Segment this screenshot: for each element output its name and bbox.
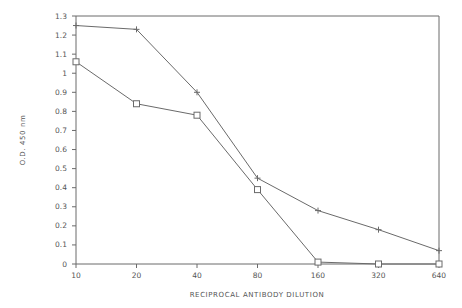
series-line <box>76 26 439 251</box>
square-marker <box>255 187 261 193</box>
y-tick-label: 0.4 <box>55 183 67 192</box>
y-tick-label: 1.1 <box>55 50 67 59</box>
x-tick-label: 320 <box>371 271 386 280</box>
line-chart: 00.10.20.30.40.50.60.70.80.911.11.21.3 1… <box>0 0 462 308</box>
y-tick-label: 1.2 <box>55 31 67 40</box>
x-tick-label: 80 <box>253 271 263 280</box>
x-tick-label: 640 <box>432 271 447 280</box>
y-tick-label: 1.3 <box>55 12 67 21</box>
x-tick-label: 160 <box>311 271 326 280</box>
square-marker <box>376 261 382 267</box>
plus-marker <box>376 227 382 233</box>
square-marker <box>73 59 79 65</box>
plus-marker <box>436 248 442 254</box>
x-axis-title: RECIPROCAL ANTIBODY DILUTION <box>190 291 325 299</box>
x-axis: 10204080160320640 <box>71 264 446 280</box>
series-line <box>76 62 439 264</box>
square-marker <box>194 112 200 118</box>
square-marker <box>315 259 321 265</box>
plus-series <box>73 23 442 254</box>
y-tick-label: 0 <box>62 260 67 269</box>
y-axis: 00.10.20.30.40.50.60.70.80.911.11.21.3 <box>55 12 76 269</box>
square-marker <box>436 261 442 267</box>
plus-marker <box>315 208 321 214</box>
plot-frame <box>76 16 439 264</box>
y-axis-title: O.D. 450 nm <box>19 115 27 166</box>
y-tick-label: 0.7 <box>55 126 67 135</box>
square-series <box>73 59 442 267</box>
y-tick-label: 0.1 <box>55 240 67 249</box>
data-series <box>73 23 442 267</box>
y-tick-label: 0.8 <box>55 107 67 116</box>
y-tick-label: 0.2 <box>55 221 67 230</box>
x-tick-label: 40 <box>192 271 202 280</box>
plus-marker <box>255 175 261 181</box>
plus-marker <box>73 23 79 29</box>
x-tick-label: 10 <box>71 271 81 280</box>
x-tick-label: 20 <box>132 271 142 280</box>
y-tick-label: 0.3 <box>55 202 67 211</box>
y-tick-label: 1 <box>62 69 67 78</box>
y-tick-label: 0.5 <box>55 164 67 173</box>
y-tick-label: 0.9 <box>55 88 67 97</box>
square-marker <box>134 101 140 107</box>
y-tick-label: 0.6 <box>55 145 67 154</box>
